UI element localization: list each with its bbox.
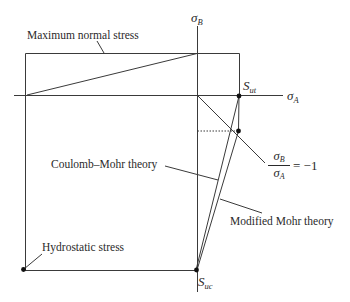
modified-mohr-label: Modified Mohr theory	[230, 216, 333, 228]
s-uc-point	[194, 268, 199, 273]
s-ut-label: Sut	[243, 79, 256, 95]
second-quadrant-diagonal	[27, 54, 197, 96]
max-normal-stress-label: Maximum normal stress	[27, 30, 139, 42]
hydrostatic-leader	[24, 254, 42, 269]
fraction-numerator: σB	[273, 150, 284, 164]
load-line-label: σB σA = −1	[268, 150, 317, 181]
modified-mohr-vertical-segment	[239, 96, 240, 131]
sigma-b-label: σB	[191, 11, 203, 27]
coulomb-mohr-label: Coulomb–Mohr theory	[51, 159, 157, 171]
hydrostatic-point	[21, 267, 26, 272]
coulomb-mohr-line	[196, 96, 239, 270]
modified-mohr-line	[197, 131, 239, 270]
max-normal-leader	[97, 41, 104, 53]
failure-theory-diagram: σB σA Sut Suc Maximum normal stress Coul…	[0, 0, 350, 302]
fraction-denominator: σA	[273, 167, 284, 181]
coulomb-mohr-leader	[165, 166, 218, 180]
s-uc-label: Suc	[198, 275, 213, 291]
fraction-rhs: = −1	[293, 159, 317, 172]
hydrostatic-stress-label: Hydrostatic stress	[42, 242, 124, 254]
modified-mohr-point	[236, 129, 241, 134]
s-ut-point	[237, 94, 242, 99]
modified-mohr-leader	[220, 199, 262, 213]
sigma-a-label: σA	[287, 89, 299, 105]
